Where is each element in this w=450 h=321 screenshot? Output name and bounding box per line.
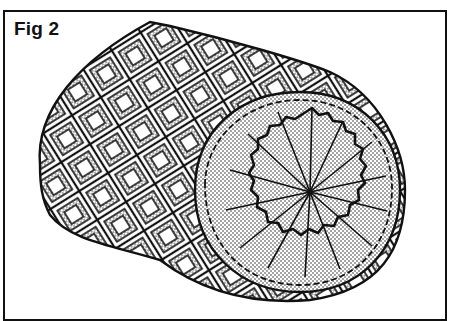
center-point (308, 190, 313, 195)
cylinder-illustration (0, 0, 450, 321)
figure-label: Fig 2 (14, 18, 59, 40)
